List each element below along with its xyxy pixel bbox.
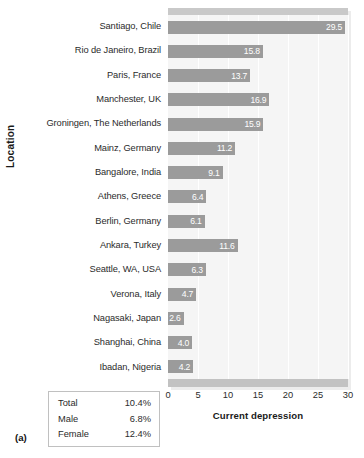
bar-value-label: 13.7 <box>231 71 250 81</box>
bar-row: 11.6 <box>168 233 348 257</box>
bar: 15.9 <box>168 118 263 131</box>
figure-panel-a: Location Santiago, ChileRio de Janeiro, … <box>0 0 364 458</box>
bar: 4.2 <box>168 360 193 373</box>
bar-value-label: 16.9 <box>250 95 269 105</box>
bar: 11.6 <box>168 239 238 252</box>
plot-area: 29.515.813.716.915.911.29.16.46.111.66.3… <box>168 8 348 387</box>
category-label: Verona, Italy <box>18 282 166 306</box>
bar-value-label: 11.6 <box>219 241 237 251</box>
bar-value-label: 15.9 <box>244 119 263 129</box>
category-label: Berlin, Germany <box>18 209 166 233</box>
bar-value-label: 4.7 <box>182 289 196 299</box>
bar-row: 9.1 <box>168 161 348 185</box>
category-label: Paris, France <box>18 63 166 87</box>
bar-value-label: 29.5 <box>326 22 345 32</box>
x-axis-tick-labels: 051015202530 <box>168 390 348 404</box>
category-label: Rio de Janeiro, Brazil <box>18 38 166 62</box>
category-label: Bangalore, India <box>18 160 166 184</box>
bar: 11.2 <box>168 142 235 155</box>
x-axis-title: Current depression <box>168 410 348 421</box>
category-label: Athens, Greece <box>18 184 166 208</box>
bar-value-label: 2.6 <box>169 313 183 323</box>
summary-row: Total10.4% <box>58 396 151 412</box>
category-label: Ankara, Turkey <box>18 233 166 257</box>
category-label: Nagasaki, Japan <box>18 306 166 330</box>
bar: 4.0 <box>168 336 192 349</box>
bar: 2.6 <box>168 312 184 325</box>
bar: 6.4 <box>168 190 206 203</box>
summary-label: Total <box>58 396 78 412</box>
category-label: Groningen, The Netherlands <box>18 111 166 135</box>
summary-row: Male6.8% <box>58 412 151 428</box>
x-tick-label: 25 <box>313 390 323 400</box>
bar: 6.1 <box>168 215 205 228</box>
plot-top-band <box>168 8 348 15</box>
x-tick-label: 30 <box>343 390 353 400</box>
x-tick-label: 5 <box>195 390 200 400</box>
bar-row: 15.9 <box>168 112 348 136</box>
bar: 15.8 <box>168 45 263 58</box>
summary-value: 10.4% <box>125 396 151 412</box>
bar: 13.7 <box>168 69 250 82</box>
bar-value-label: 6.4 <box>192 192 206 202</box>
bar-value-label: 9.1 <box>208 168 222 178</box>
bar: 16.9 <box>168 93 269 106</box>
bar-value-label: 6.1 <box>190 216 204 226</box>
summary-box: Total10.4%Male6.8%Female12.4% <box>48 391 160 447</box>
bar-row: 6.1 <box>168 209 348 233</box>
bar-row: 6.3 <box>168 258 348 282</box>
category-label: Manchester, UK <box>18 87 166 111</box>
bar-series: 29.515.813.716.915.911.29.16.46.111.66.3… <box>168 15 348 379</box>
x-tick-label: 0 <box>165 390 170 400</box>
bar-row: 4.7 <box>168 282 348 306</box>
bar-value-label: 4.0 <box>178 338 192 348</box>
bar: 6.3 <box>168 263 206 276</box>
x-tick-label: 20 <box>283 390 293 400</box>
bar-row: 4.2 <box>168 355 348 379</box>
gridline <box>348 15 349 379</box>
category-label: Mainz, Germany <box>18 136 166 160</box>
summary-label: Male <box>58 412 78 428</box>
bar-value-label: 15.8 <box>244 46 263 56</box>
category-label: Shanghai, China <box>18 330 166 354</box>
bar-row: 4.0 <box>168 330 348 354</box>
bar-row: 13.7 <box>168 64 348 88</box>
summary-value: 6.8% <box>130 412 151 428</box>
plot-bottom-axis-band <box>168 379 348 387</box>
category-label-list: Santiago, ChileRio de Janeiro, BrazilPar… <box>18 14 166 379</box>
category-label: Santiago, Chile <box>18 14 166 38</box>
summary-value: 12.4% <box>125 427 151 443</box>
bar-row: 15.8 <box>168 39 348 63</box>
category-label: Seattle, WA, USA <box>18 257 166 281</box>
bar: 29.5 <box>168 21 345 34</box>
x-tick-label: 10 <box>223 390 233 400</box>
panel-letter: (a) <box>15 432 27 443</box>
bar-value-label: 11.2 <box>217 143 235 153</box>
x-tick-label: 15 <box>253 390 263 400</box>
bar-row: 29.5 <box>168 15 348 39</box>
bar-value-label: 4.2 <box>179 362 193 372</box>
bar: 9.1 <box>168 166 223 179</box>
bar-row: 11.2 <box>168 136 348 160</box>
bar-row: 2.6 <box>168 306 348 330</box>
bar: 4.7 <box>168 288 196 301</box>
summary-row: Female12.4% <box>58 427 151 443</box>
summary-label: Female <box>58 427 89 443</box>
category-label: Ibadan, Nigeria <box>18 355 166 379</box>
bar-row: 16.9 <box>168 88 348 112</box>
bar-row: 6.4 <box>168 185 348 209</box>
bar-value-label: 6.3 <box>191 265 205 275</box>
